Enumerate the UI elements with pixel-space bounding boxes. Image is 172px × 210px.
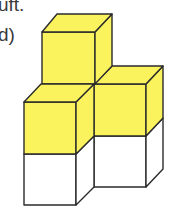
cube-top-back	[42, 14, 112, 84]
cube-right-upper	[94, 66, 163, 136]
cube-left-upper	[24, 84, 94, 154]
cube-structure-figure	[0, 0, 172, 210]
